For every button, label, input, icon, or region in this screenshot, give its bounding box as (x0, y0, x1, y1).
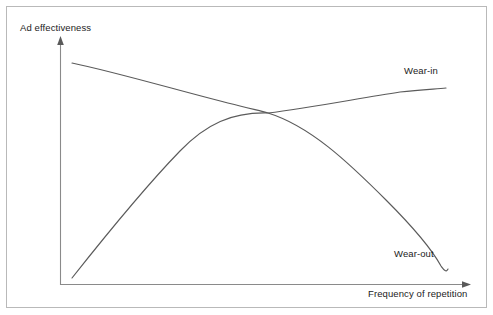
wear-in-curve (72, 88, 446, 278)
wear-out-curve (72, 63, 448, 271)
y-axis-title: Ad effectiveness (20, 22, 91, 33)
chart-figure: Ad effectiveness Frequency of repetition… (0, 0, 493, 315)
wear-out-series-label: Wear-out (394, 248, 434, 259)
x-axis-title: Frequency of repetition (368, 288, 467, 299)
chart-plot-area (0, 0, 493, 315)
x-axis-arrow-icon (462, 281, 471, 288)
wear-in-series-label: Wear-in (404, 65, 438, 76)
y-axis-arrow-icon (57, 36, 64, 45)
